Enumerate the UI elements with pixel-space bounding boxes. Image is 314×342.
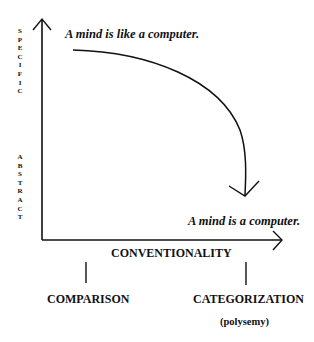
axis-letter: P xyxy=(14,36,26,45)
axis-letter: E xyxy=(14,44,26,53)
axis-letter: T xyxy=(14,179,26,188)
y-axis-top-label: SPECIFIC xyxy=(14,27,26,96)
comparison-label: COMPARISON xyxy=(47,292,129,307)
axis-letter: I xyxy=(14,61,26,70)
categorization-label: CATEGORIZATION xyxy=(193,292,304,307)
y-axis-bottom-label: ABSTRACT xyxy=(14,153,26,222)
polysemy-note: (polysemy) xyxy=(220,316,269,327)
axis-letter: A xyxy=(14,196,26,205)
conventionalization-curve xyxy=(73,50,246,195)
axis-letter: F xyxy=(14,70,26,79)
curve-arrowhead-icon xyxy=(229,181,259,196)
axis-letter: C xyxy=(14,53,26,62)
axis-letter: I xyxy=(14,79,26,88)
axis-letter: S xyxy=(14,27,26,36)
start-expression: A mind is like a computer. xyxy=(65,27,199,42)
axis-letter: A xyxy=(14,153,26,162)
axis-letter: C xyxy=(14,87,26,96)
axis-letter: S xyxy=(14,170,26,179)
end-expression: A mind is a computer. xyxy=(188,214,300,229)
axis-letter: T xyxy=(14,213,26,222)
diagram-canvas xyxy=(0,0,314,342)
axis-letter: R xyxy=(14,187,26,196)
x-axis-title: CONVENTIONALITY xyxy=(111,246,232,261)
axis-letter: C xyxy=(14,205,26,214)
axis-letter: B xyxy=(14,162,26,171)
